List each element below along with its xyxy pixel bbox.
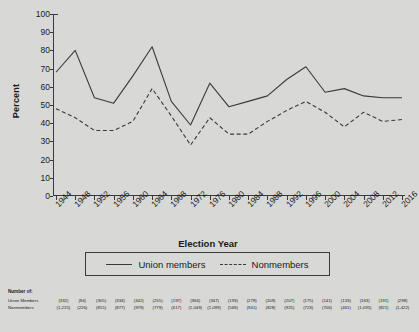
y-tick-label-100: 100 [26, 10, 50, 18]
counts-cell: (347) [205, 297, 224, 304]
counts-cell: (1,422) [393, 304, 412, 311]
counts-cell: (298) [393, 297, 412, 304]
axes: 1944194819521956196019641968197219761980… [53, 14, 405, 196]
series-lines [53, 14, 405, 196]
counts-cell: (305) [92, 297, 111, 304]
x-axis-title: Election Year [0, 238, 416, 249]
counts-cell: (1,049) [186, 304, 205, 311]
counts-cell: (141) [318, 297, 337, 304]
chart-legend: Union members Nonmembers [85, 252, 330, 276]
counts-cell: (94) [73, 297, 92, 304]
counts-cell: (723) [299, 304, 318, 311]
counts-cell: (133) [336, 297, 355, 304]
counts-cell: (1,215) [54, 304, 73, 311]
counts-cell: (779) [148, 304, 167, 311]
y-axis-title: Percent [11, 66, 21, 136]
counts-cell: (461) [336, 304, 355, 311]
y-tick-label-90: 90 [26, 28, 50, 36]
counts-cell: (197) [167, 297, 186, 304]
footnote-table: Number of: Union Members(332)(94)(305)(3… [8, 288, 412, 311]
counts-cell: (226) [73, 304, 92, 311]
counts-cell: (278) [242, 297, 261, 304]
legend-label-nonmembers: Nonmembers [252, 259, 309, 270]
y-tick-mark-0 [50, 196, 53, 197]
counts-cell: (209) [261, 297, 280, 304]
footnote-title: Number of: [8, 288, 412, 295]
counts-cell: (1,099) [205, 304, 224, 311]
plot-area: Percent 0102030405060708090100 194419481… [0, 0, 416, 250]
counts-cell: (334) [110, 297, 129, 304]
counts-cell: (1,095) [355, 304, 374, 311]
legend-line-dashed-icon [220, 264, 246, 265]
counts-row-label: Nonmembers [8, 304, 54, 311]
series-line-union-members [56, 47, 402, 125]
counts-cell: (332) [54, 297, 73, 304]
counts-cell: (163) [355, 297, 374, 304]
counts-cell: (979) [129, 304, 148, 311]
y-tick-label-50: 50 [26, 101, 50, 109]
counts-cell: (191) [374, 297, 393, 304]
counts-cell: (617) [167, 304, 186, 311]
counts-cell: (193) [223, 297, 242, 304]
y-tick-label-40: 40 [26, 119, 50, 127]
y-tick-label-20: 20 [26, 156, 50, 164]
counts-row-label: Union Members [8, 297, 54, 304]
y-tick-label-30: 30 [26, 137, 50, 145]
counts-cell: (877) [110, 304, 129, 311]
counts-cell: (175) [299, 297, 318, 304]
counts-cell: (815) [92, 304, 111, 311]
counts-cell: (342) [129, 297, 148, 304]
y-tick-label-10: 10 [26, 174, 50, 182]
counts-cell: (207) [280, 297, 299, 304]
table-row: Nonmembers(1,215)(226)(815)(877)(979)(77… [8, 304, 412, 311]
counts-cell: (925) [280, 304, 299, 311]
counts-cell: (366) [186, 297, 205, 304]
counts-table: Union Members(332)(94)(305)(334)(342)(25… [8, 297, 412, 311]
table-row: Union Members(332)(94)(305)(334)(342)(25… [8, 297, 412, 304]
y-tick-label-60: 60 [26, 83, 50, 91]
legend-item-union-members: Union members [106, 259, 205, 270]
y-tick-label-0: 0 [26, 192, 50, 200]
counts-cell: (255) [148, 297, 167, 304]
counts-cell: (706) [318, 304, 337, 311]
legend-item-nonmembers: Nonmembers [220, 259, 309, 270]
y-tick-label-80: 80 [26, 46, 50, 54]
counts-cell: (569) [223, 304, 242, 311]
counts-cell: (828) [261, 304, 280, 311]
legend-line-solid-icon [106, 264, 132, 265]
legend-label-union-members: Union members [138, 259, 205, 270]
counts-cell: (941) [242, 304, 261, 311]
y-axis-ticks: 0102030405060708090100 [26, 0, 50, 200]
counts-cell: (821) [374, 304, 393, 311]
y-tick-label-70: 70 [26, 65, 50, 73]
series-line-nonmembers [56, 89, 402, 145]
